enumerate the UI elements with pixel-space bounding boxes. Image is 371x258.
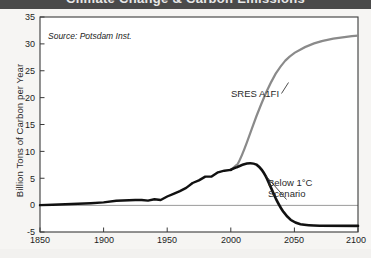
x-tick-label-1850: 1850 <box>20 235 60 245</box>
y-tick-label-20: 20 <box>11 93 35 103</box>
series-label-sres-a1fi: SRES A1FI <box>231 88 279 99</box>
x-tick-label-2100: 2100 <box>336 235 371 245</box>
source-note: Source: Potsdam Inst. <box>48 31 132 41</box>
x-tick-label-2050: 2050 <box>274 235 314 245</box>
headline-banner: Climate Change & Carbon Emissions <box>0 0 371 9</box>
y-tick-label-0: 0 <box>11 200 35 210</box>
chart-plot-area <box>0 9 371 249</box>
y-tick-label-5: 5 <box>11 174 35 184</box>
y-tick-label-15: 15 <box>11 120 35 130</box>
x-tick-label-1950: 1950 <box>147 235 187 245</box>
y-tick-label-25: 25 <box>11 66 35 76</box>
y-tick-label-30: 30 <box>11 39 35 49</box>
series-label-below-1c-line2: Scenario <box>268 188 312 199</box>
series-label-below-1c: Below 1°C Scenario <box>268 177 312 199</box>
y-tick-label-10: 10 <box>11 147 35 157</box>
x-tick-label-2000: 2000 <box>211 235 251 245</box>
y-tick-label-35: 35 <box>11 12 35 22</box>
plot-background <box>40 17 358 232</box>
chart-figure: Climate Change & Carbon Emissions <box>0 0 371 258</box>
series-label-below-1c-line1: Below 1°C <box>268 177 312 188</box>
headline-text: Climate Change & Carbon Emissions <box>0 0 371 6</box>
chart-sheet: Billion Tons of Carbon per Year 35 30 25… <box>0 9 371 249</box>
x-tick-label-1900: 1900 <box>84 235 124 245</box>
